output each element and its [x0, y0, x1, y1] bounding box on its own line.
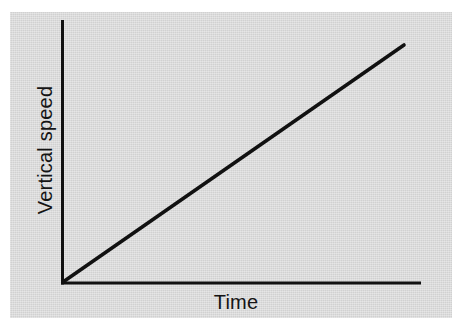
- figure: Vertical speed Time: [0, 0, 460, 331]
- data-line-vertical-speed: [63, 45, 404, 282]
- y-axis-label: Vertical speed: [35, 86, 55, 214]
- x-axis-label: Time: [214, 292, 259, 312]
- chart-plot-area: [0, 0, 460, 331]
